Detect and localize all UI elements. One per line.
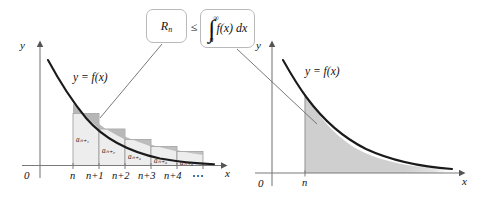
right-shaded-area — [305, 95, 452, 173]
right-y-axis-label: y — [256, 40, 261, 51]
left-x-ellipsis: ⋯ — [192, 170, 206, 182]
remainder-subscript: n — [168, 25, 172, 34]
right-x-axis-label: x — [462, 176, 467, 187]
relation-symbol: ≤ — [188, 20, 200, 35]
right-curve-label: y = f(x) — [305, 66, 340, 78]
callout-remainder[interactable]: Rn — [146, 9, 187, 43]
rect-label-a-n-plus-3: aₙ₊₃ — [128, 154, 141, 161]
rect-label-a-n-plus-2: aₙ₊₂ — [102, 148, 115, 155]
callout-integral[interactable]: ∫∞nf(x)dx — [200, 9, 255, 48]
rect-label-a-n-plus-1: aₙ₊₁ — [76, 137, 89, 144]
rect-label-a-n-plus-5: aₙ₊₅ — [180, 160, 193, 167]
rect-label-a-n-plus-4: aₙ₊₄ — [154, 158, 167, 165]
right-origin-label: 0 — [258, 178, 264, 189]
leader-line-integral — [237, 49, 317, 124]
left-x-tick-label-3: n+3 — [138, 171, 156, 182]
right-plot-group — [255, 46, 460, 186]
callout-remainder-text: Rn — [161, 19, 172, 34]
integral-integrand: f(x) — [215, 21, 233, 36]
left-origin-label: 0 — [24, 170, 30, 181]
left-curve-label: y = f(x) — [73, 72, 108, 84]
integral-upper-limit: ∞ — [214, 13, 219, 22]
right-x-tick-label-n: n — [302, 178, 307, 189]
left-x-tick-label-0: n — [70, 171, 75, 182]
integral-lower-limit: n — [210, 35, 214, 44]
left-x-tick-label-1: n+1 — [86, 171, 104, 182]
left-x-axis-label: x — [225, 168, 230, 179]
left-y-axis-label: y — [20, 40, 25, 51]
left-x-tick-label-2: n+2 — [112, 171, 130, 182]
integral-differential: dx — [233, 21, 247, 36]
leader-line-remainder — [100, 44, 162, 118]
left-x-tick-label-4: n+4 — [164, 171, 182, 182]
callout-integral-text: ∫∞nf(x)dx — [208, 20, 248, 38]
integral-test-figure: Rn ≤ ∫∞nf(x)dx y x 0 y = f(x) n n+1 n+2 … — [0, 0, 481, 204]
